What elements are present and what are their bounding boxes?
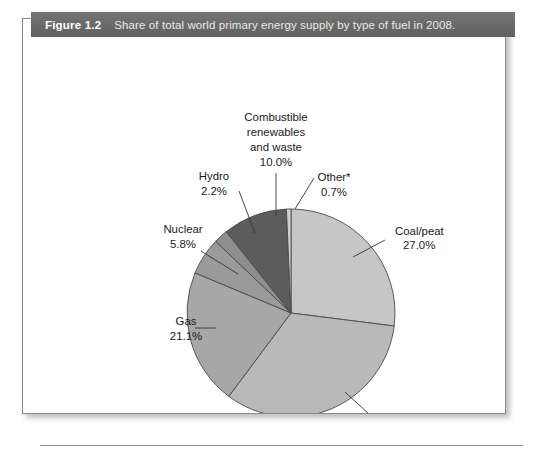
pie-label-hydro: Hydro	[199, 170, 229, 182]
figure-caption-bar: Figure 1.2 Share of total world primary …	[31, 12, 515, 37]
pie-chart-svg: Coal/peat27.0%Oil33.2%Gas21.1%Nuclear5.8…	[23, 41, 505, 413]
leader-line-other	[295, 178, 314, 209]
pie-chart-area: Coal/peat27.0%Oil33.2%Gas21.1%Nuclear5.8…	[23, 41, 505, 413]
pie-label-coal-peat: Coal/peat	[395, 225, 445, 237]
pie-slice-coal-peat[interactable]	[291, 209, 395, 326]
figure-number-label: Figure 1.2	[45, 19, 101, 31]
figure-box: Figure 1.2 Share of total world primary …	[22, 18, 506, 414]
pie-slice-group	[187, 209, 395, 413]
pie-value-gas: 21.1%	[170, 330, 202, 342]
figure-caption-text: Share of total world primary energy supp…	[114, 19, 455, 31]
pie-value-coal-peat: 27.0%	[403, 239, 435, 251]
pie-value-hydro: 2.2%	[201, 185, 227, 197]
pie-label-combustible-renewables-and-waste-3: and waste	[250, 141, 302, 153]
pie-value-nuclear: 5.8%	[170, 238, 196, 250]
pie-label-gas: Gas	[176, 315, 197, 327]
pie-label-nuclear: Nuclear	[163, 223, 202, 235]
pie-value-other: 0.7%	[321, 186, 347, 198]
page-bottom-rule	[40, 445, 523, 446]
pie-value-combustible-renewables-and-waste: 10.0%	[260, 156, 292, 168]
pie-label-combustible-renewables-and-waste: Combustible	[244, 111, 307, 123]
figure-page: Figure 1.2 Share of total world primary …	[0, 0, 533, 453]
pie-label-combustible-renewables-and-waste-2: renewables	[247, 126, 306, 138]
leader-line-oil	[345, 392, 370, 413]
pie-label-other: Other*	[318, 171, 351, 183]
